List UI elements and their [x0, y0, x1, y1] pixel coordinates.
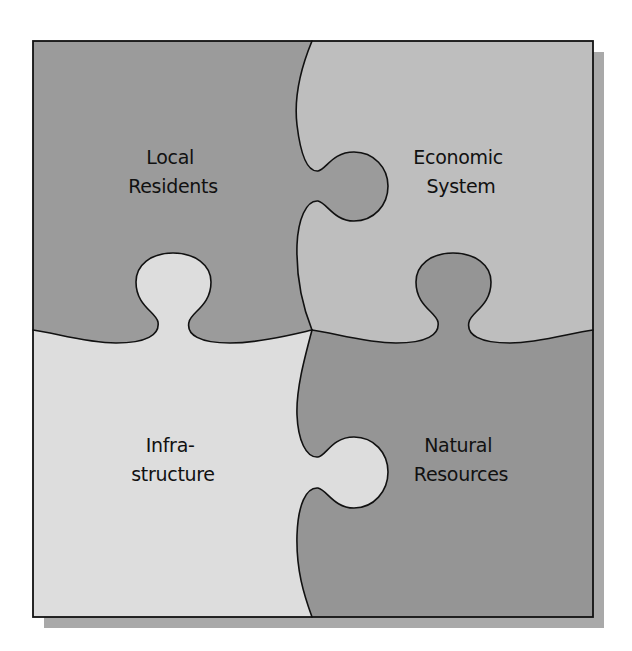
label-line: System — [426, 175, 495, 197]
label-line: Natural — [424, 434, 492, 456]
label-line: Infra- — [146, 434, 195, 456]
label-line: Economic — [413, 146, 503, 168]
label-line: Local — [146, 146, 194, 168]
label-line: structure — [131, 463, 215, 485]
label-line: Resources — [414, 463, 508, 485]
label-line: Residents — [128, 175, 218, 197]
puzzle-diagram: Local Residents Economic System Infra- s… — [0, 0, 632, 651]
